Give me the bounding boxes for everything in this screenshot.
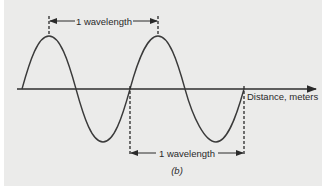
axis-label: Distance, meters	[247, 91, 319, 102]
wavelength-diagram: 1 wavelength 1 wavelength Distance, mete…	[0, 0, 326, 195]
figure-caption: (b)	[171, 165, 183, 176]
wave-diagram-svg: 1 wavelength 1 wavelength Distance, mete…	[0, 0, 326, 195]
bottom-wavelength-label: 1 wavelength	[159, 148, 215, 159]
top-wavelength-label: 1 wavelength	[76, 16, 132, 27]
